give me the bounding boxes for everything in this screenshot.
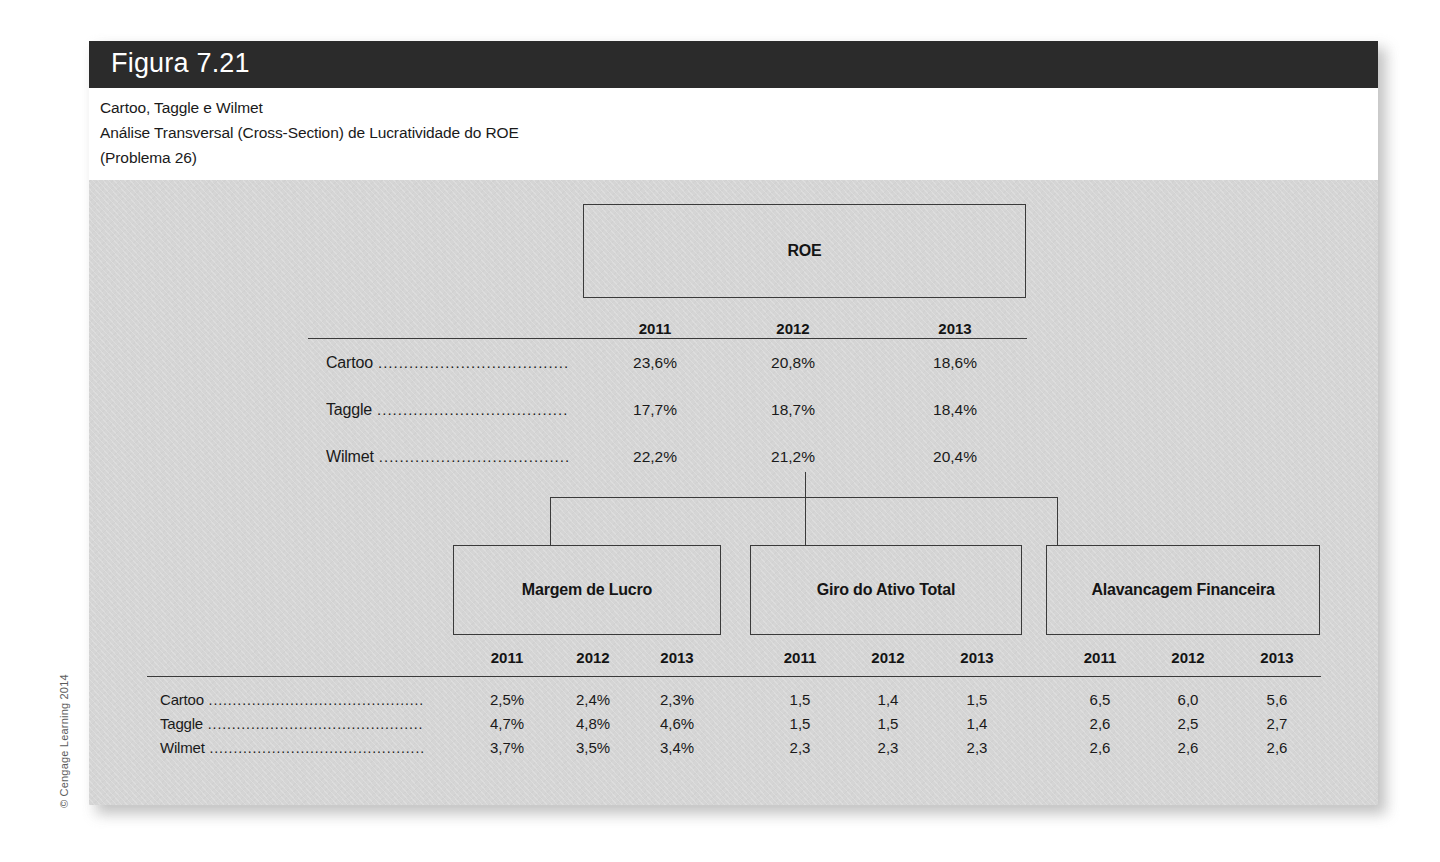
roe-row-label-taggle: Taggle .................................… <box>326 401 568 419</box>
caption-line-2: Análise Transversal (Cross-Section) de L… <box>100 124 519 142</box>
margem-de-lucro-box-label: Margem de Lucro <box>522 581 652 599</box>
roe-year-2013: 2013 <box>938 320 971 337</box>
leader-dots: ........................................… <box>204 692 424 708</box>
roe-row-name-cartoo: Cartoo <box>326 354 373 371</box>
leader-dots: ..................................... <box>372 401 568 418</box>
roe-cell-taggle-2011: 17,7% <box>633 401 677 419</box>
bottom-row-label-taggle: Taggle .................................… <box>160 715 423 732</box>
margem-year-2013: 2013 <box>660 649 693 666</box>
roe-row-name-wilmet: Wilmet <box>326 448 374 465</box>
margem-cell-cartoo-2011: 2,5% <box>490 691 524 708</box>
giro-year-2011: 2011 <box>784 649 817 666</box>
roe-box-label: ROE <box>787 242 821 260</box>
roe-cell-cartoo-2013: 18,6% <box>933 354 977 372</box>
giro-cell-cartoo-2011: 1,5 <box>790 691 811 708</box>
alavancagem-cell-wilmet-2013: 2,6 <box>1267 739 1288 756</box>
roe-box: ROE <box>583 204 1026 298</box>
giro-do-ativo-total-box: Giro do Ativo Total <box>750 545 1022 635</box>
leader-dots: ........................................… <box>203 716 423 732</box>
leader-dots: ........................................… <box>205 740 425 756</box>
caption-line-1: Cartoo, Taggle e Wilmet <box>100 99 263 117</box>
margem-cell-taggle-2012: 4,8% <box>576 715 610 732</box>
giro-cell-taggle-2012: 1,5 <box>878 715 899 732</box>
giro-cell-wilmet-2011: 2,3 <box>790 739 811 756</box>
alavancagem-cell-cartoo-2011: 6,5 <box>1090 691 1111 708</box>
alavancagem-cell-wilmet-2012: 2,6 <box>1178 739 1199 756</box>
caption-line-3: (Problema 26) <box>100 149 197 167</box>
figure-title: Figura 7.21 <box>111 48 250 79</box>
figure-title-bar: Figura 7.21 <box>89 41 1378 88</box>
roe-cell-wilmet-2011: 22,2% <box>633 448 677 466</box>
roe-cell-cartoo-2011: 23,6% <box>633 354 677 372</box>
margem-cell-wilmet-2012: 3,5% <box>576 739 610 756</box>
giro-do-ativo-total-box-label: Giro do Ativo Total <box>817 581 955 599</box>
alavancagem-cell-taggle-2012: 2,5 <box>1178 715 1199 732</box>
bottom-table-rule <box>147 676 1321 677</box>
alavancagem-year-2013: 2013 <box>1260 649 1293 666</box>
alavancagem-cell-cartoo-2012: 6,0 <box>1178 691 1199 708</box>
leader-dots: ..................................... <box>374 448 570 465</box>
roe-year-2012: 2012 <box>776 320 809 337</box>
diagram-panel: ROE 2011 2012 2013 Cartoo ..............… <box>89 180 1378 805</box>
connector-stem-top <box>805 472 806 497</box>
connector-crossbar <box>550 497 1057 498</box>
connector-drop-left <box>550 497 551 545</box>
alavancagem-year-2012: 2012 <box>1171 649 1204 666</box>
margem-cell-cartoo-2013: 2,3% <box>660 691 694 708</box>
giro-year-2012: 2012 <box>871 649 904 666</box>
roe-header-rule <box>308 338 1027 339</box>
alavancagem-cell-cartoo-2013: 5,6 <box>1267 691 1288 708</box>
giro-cell-taggle-2013: 1,4 <box>967 715 988 732</box>
roe-cell-cartoo-2012: 20,8% <box>771 354 815 372</box>
alavancagem-cell-taggle-2013: 2,7 <box>1267 715 1288 732</box>
roe-cell-wilmet-2012: 21,2% <box>771 448 815 466</box>
margem-year-2012: 2012 <box>576 649 609 666</box>
bottom-row-name-wilmet: Wilmet <box>160 739 205 756</box>
roe-year-2011: 2011 <box>639 320 672 337</box>
bottom-row-name-cartoo: Cartoo <box>160 691 204 708</box>
giro-cell-wilmet-2012: 2,3 <box>878 739 899 756</box>
roe-row-name-taggle: Taggle <box>326 401 372 418</box>
alavancagem-cell-wilmet-2011: 2,6 <box>1090 739 1111 756</box>
connector-drop-center <box>805 497 806 545</box>
alavancagem-cell-taggle-2011: 2,6 <box>1090 715 1111 732</box>
margem-cell-wilmet-2011: 3,7% <box>490 739 524 756</box>
giro-cell-taggle-2011: 1,5 <box>790 715 811 732</box>
roe-cell-wilmet-2013: 20,4% <box>933 448 977 466</box>
alavancagem-financeira-box-label: Alavancagem Financeira <box>1091 581 1274 599</box>
roe-row-label-cartoo: Cartoo .................................… <box>326 354 569 372</box>
roe-row-label-wilmet: Wilmet .................................… <box>326 448 570 466</box>
bottom-row-label-wilmet: Wilmet .................................… <box>160 739 425 756</box>
margem-cell-wilmet-2013: 3,4% <box>660 739 694 756</box>
roe-cell-taggle-2012: 18,7% <box>771 401 815 419</box>
margem-cell-taggle-2011: 4,7% <box>490 715 524 732</box>
figure-caption-area: Cartoo, Taggle e Wilmet Análise Transver… <box>89 88 1378 180</box>
connector-drop-right <box>1057 497 1058 545</box>
margem-cell-taggle-2013: 4,6% <box>660 715 694 732</box>
margem-cell-cartoo-2012: 2,4% <box>576 691 610 708</box>
alavancagem-year-2011: 2011 <box>1084 649 1117 666</box>
roe-cell-taggle-2013: 18,4% <box>933 401 977 419</box>
giro-cell-wilmet-2013: 2,3 <box>967 739 988 756</box>
giro-cell-cartoo-2012: 1,4 <box>878 691 899 708</box>
alavancagem-financeira-box: Alavancagem Financeira <box>1046 545 1320 635</box>
margem-de-lucro-box: Margem de Lucro <box>453 545 721 635</box>
bottom-row-label-cartoo: Cartoo .................................… <box>160 691 424 708</box>
margem-year-2011: 2011 <box>491 649 524 666</box>
giro-cell-cartoo-2013: 1,5 <box>967 691 988 708</box>
leader-dots: ..................................... <box>373 354 569 371</box>
giro-year-2013: 2013 <box>960 649 993 666</box>
copyright-notice: © Cengage Learning 2014 <box>58 786 218 808</box>
figure-root: Figura 7.21 Cartoo, Taggle e Wilmet Anál… <box>0 0 1440 862</box>
bottom-row-name-taggle: Taggle <box>160 715 203 732</box>
